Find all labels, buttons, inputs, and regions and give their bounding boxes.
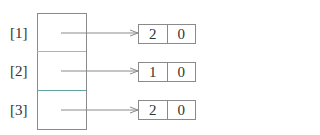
node-box-2: 1 0 [138, 62, 196, 82]
node-1-value-1: 0 [167, 25, 196, 43]
node-3-value-1: 0 [167, 101, 196, 119]
node-2-value-0: 1 [139, 63, 167, 81]
node-box-3: 2 0 [138, 100, 196, 120]
node-box-1: 2 0 [138, 24, 196, 44]
node-2-value-1: 0 [167, 63, 196, 81]
node-1-value-0: 2 [139, 25, 167, 43]
node-3-value-0: 2 [139, 101, 167, 119]
